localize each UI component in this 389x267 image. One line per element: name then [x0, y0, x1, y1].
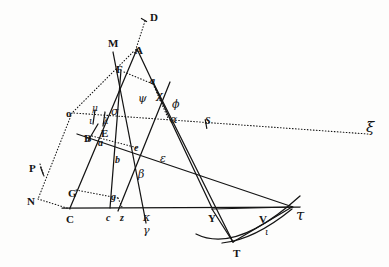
point-label-a-upper: a	[150, 76, 155, 86]
point-label-C: C	[66, 214, 74, 225]
point-label-G: G	[68, 188, 77, 199]
point-label-o: o	[66, 108, 72, 119]
tick-mark-group	[41, 19, 207, 175]
point-label-T: T	[233, 248, 240, 259]
point-label-alpha: α	[170, 114, 177, 125]
point-label-kappa: κ	[143, 212, 150, 223]
point-label-D: D	[150, 12, 158, 23]
point-label-iota: ι	[89, 117, 93, 126]
point-label-A: A	[135, 45, 143, 56]
point-label-b: b	[115, 155, 120, 165]
tick-P	[41, 167, 44, 175]
point-label-c: c	[106, 213, 110, 223]
line-A-Y	[137, 49, 212, 208]
point-label-phi: ϕ	[172, 99, 180, 110]
point-label-g: g	[111, 192, 116, 202]
geometry-figure: DMAFaψχϕαoμσιλEBaebεβPNGgCczκγSξYVτTι	[0, 0, 389, 267]
point-label-mu: μ	[92, 104, 98, 113]
point-label-tau: τ	[296, 208, 304, 223]
figure-canvas	[0, 0, 389, 267]
point-label-iota2: ι	[265, 228, 269, 237]
point-label-S: S	[205, 116, 211, 126]
dotted-M-o	[72, 52, 133, 113]
point-label-P: P	[29, 163, 36, 174]
point-label-z: z	[120, 213, 124, 223]
point-label-Y: Y	[208, 213, 216, 224]
point-label-F: F	[116, 64, 123, 75]
point-label-lambda: λ	[103, 117, 109, 126]
line-M-kappa	[113, 52, 146, 223]
point-label-V: V	[259, 214, 267, 225]
point-label-xi: ξ	[366, 120, 374, 135]
point-label-sigma: σ	[111, 106, 119, 117]
point-label-psi: ψ	[138, 93, 147, 104]
dotted-o-N	[38, 113, 72, 199]
point-label-beta: β	[138, 169, 144, 180]
line-F-c	[110, 70, 121, 208]
point-label-M: M	[108, 38, 118, 49]
point-label-a-lower: a	[98, 138, 103, 148]
point-label-B: B	[84, 133, 91, 144]
tick-D	[141, 19, 146, 22]
point-label-epsilon: ε	[160, 153, 166, 164]
point-label-N: N	[27, 196, 35, 207]
point-label-chi: χ	[156, 90, 163, 101]
point-label-gamma: γ	[143, 225, 150, 236]
point-label-e: e	[134, 143, 138, 153]
